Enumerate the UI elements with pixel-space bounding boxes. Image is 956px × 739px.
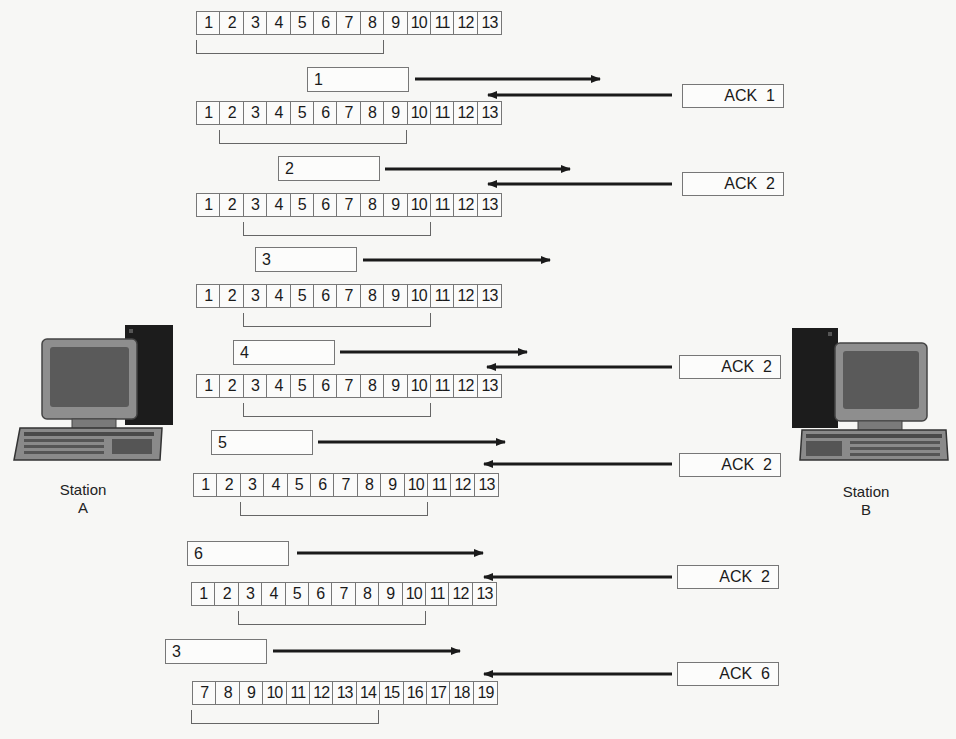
sequence-cell: 10: [408, 375, 431, 397]
sequence-cell: 2: [220, 285, 243, 307]
sequence-cell: 9: [384, 102, 407, 124]
station-a-computer-icon: [12, 322, 177, 464]
sequence-cell: 1: [197, 12, 220, 34]
sequence-cell: 7: [337, 375, 360, 397]
sequence-cell: 5: [288, 474, 311, 496]
sequence-cell: 13: [478, 12, 501, 34]
sequence-cell: 1: [197, 102, 220, 124]
frame-box-7: 3: [165, 639, 267, 664]
sequence-row-1: 12345678910111213: [196, 11, 502, 35]
sequence-cell: 6: [311, 474, 334, 496]
sequence-cell: 3: [239, 583, 262, 605]
station-b-label-line1: Station: [833, 483, 899, 501]
sequence-cell: 1: [197, 375, 220, 397]
sequence-cell: 10: [263, 682, 286, 704]
sequence-cell: 2: [220, 194, 243, 216]
sequence-cell: 11: [287, 682, 310, 704]
sequence-cell: 2: [220, 12, 243, 34]
sequence-cell: 6: [314, 194, 337, 216]
sequence-cell: 13: [478, 285, 501, 307]
ack-box-4: ACK 2: [679, 453, 781, 477]
sequence-cell: 9: [384, 375, 407, 397]
sequence-cell: 3: [244, 194, 267, 216]
sequence-cell: 10: [405, 474, 428, 496]
sequence-cell: 7: [337, 102, 360, 124]
sequence-cell: 12: [454, 194, 477, 216]
frame-box-3: 3: [255, 247, 357, 272]
sequence-cell: 11: [428, 474, 451, 496]
sequence-cell: 9: [384, 12, 407, 34]
sequence-cell: 4: [267, 12, 290, 34]
station-b-label-line2: B: [833, 501, 899, 519]
frame-box-1: 1: [307, 67, 409, 92]
sequence-cell: 10: [403, 583, 426, 605]
ack-box-5: ACK 2: [677, 565, 779, 589]
sequence-cell: 11: [426, 583, 449, 605]
sequence-cell: 11: [431, 102, 454, 124]
sequence-cell: 4: [267, 285, 290, 307]
sequence-cell: 9: [384, 285, 407, 307]
sequence-cell: 1: [197, 285, 220, 307]
window-bracket-5: [243, 403, 431, 417]
station-b-computer-icon: [790, 326, 950, 464]
sequence-cell: 12: [449, 583, 472, 605]
sequence-cell: 3: [241, 474, 264, 496]
sequence-cell: 5: [291, 285, 314, 307]
sequence-cell: 13: [478, 194, 501, 216]
window-bracket-6: [240, 502, 428, 516]
sequence-cell: 6: [314, 12, 337, 34]
sequence-cell: 10: [408, 194, 431, 216]
sequence-cell: 5: [291, 194, 314, 216]
sequence-cell: 4: [267, 375, 290, 397]
sequence-cell: 2: [220, 375, 243, 397]
sequence-cell: 4: [267, 102, 290, 124]
sequence-cell: 8: [361, 12, 384, 34]
sequence-cell: 3: [244, 12, 267, 34]
sequence-cell: 13: [333, 682, 356, 704]
sequence-cell: 7: [193, 682, 216, 704]
sequence-cell: 18: [450, 682, 473, 704]
sequence-cell: 5: [291, 375, 314, 397]
ack-box-1: ACK 1: [682, 84, 784, 108]
sequence-cell: 3: [244, 375, 267, 397]
sequence-cell: 11: [431, 12, 454, 34]
sliding-window-diagram: 12345678910111213 12345678910111213 1234…: [0, 0, 956, 739]
frame-box-4: 4: [233, 340, 335, 365]
window-bracket-3: [243, 222, 431, 236]
sequence-cell: 13: [473, 583, 496, 605]
sequence-cell: 12: [451, 474, 474, 496]
sequence-cell: 11: [431, 285, 454, 307]
sequence-row-6: 12345678910111213: [193, 473, 499, 497]
sequence-cell: 8: [361, 285, 384, 307]
sequence-cell: 7: [332, 583, 355, 605]
sequence-cell: 11: [431, 194, 454, 216]
sequence-cell: 13: [478, 102, 501, 124]
sequence-cell: 4: [264, 474, 287, 496]
sequence-cell: 8: [361, 194, 384, 216]
sequence-cell: 4: [262, 583, 285, 605]
frame-box-6: 6: [187, 541, 289, 566]
sequence-cell: 2: [217, 474, 240, 496]
sequence-cell: 8: [356, 583, 379, 605]
sequence-cell: 12: [310, 682, 333, 704]
sequence-cell: 2: [215, 583, 238, 605]
sequence-cell: 13: [475, 474, 498, 496]
sequence-row-8: 78910111213141516171819: [192, 681, 498, 705]
sequence-cell: 1: [194, 474, 217, 496]
station-a-label: Station A: [50, 481, 116, 517]
ack-box-3: ACK 2: [679, 355, 781, 379]
sequence-cell: 7: [337, 12, 360, 34]
sequence-cell: 14: [357, 682, 380, 704]
ack-box-6: ACK 6: [677, 662, 779, 686]
window-bracket-7: [238, 611, 426, 625]
sequence-row-3: 12345678910111213: [196, 193, 502, 217]
ack-box-2: ACK 2: [682, 172, 784, 196]
sequence-cell: 5: [286, 583, 309, 605]
window-bracket-1: [196, 40, 384, 54]
sequence-cell: 3: [244, 285, 267, 307]
sequence-cell: 17: [427, 682, 450, 704]
sequence-cell: 3: [244, 102, 267, 124]
sequence-cell: 1: [197, 194, 220, 216]
sequence-cell: 16: [404, 682, 427, 704]
sequence-cell: 10: [408, 285, 431, 307]
